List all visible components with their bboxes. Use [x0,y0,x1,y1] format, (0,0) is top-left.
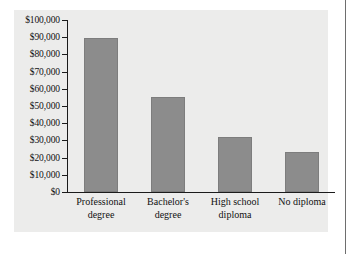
bar [285,152,319,192]
y-axis-tick [62,140,67,141]
y-axis-tick-label-wrap: $10,000 [0,170,60,180]
y-axis-tick-label-wrap: $90,000 [0,32,60,42]
y-axis-tick-label-wrap: $30,000 [0,135,60,145]
y-axis-tick-label: $100,000 [2,15,60,25]
y-axis-tick-label-wrap: $80,000 [0,49,60,59]
y-axis-tick [62,106,67,107]
x-axis-category-label: High schooldiploma [202,196,269,221]
y-axis-tick-label: $10,000 [2,170,60,180]
y-axis-line [67,20,68,192]
y-axis-tick-label: $50,000 [2,101,60,111]
figure: $0$10,000$20,000$30,000$40,000$50,000$60… [0,0,360,254]
y-axis-tick-label: $20,000 [2,153,60,163]
y-axis-tick-label: $80,000 [2,49,60,59]
y-axis-tick-label-wrap: $70,000 [0,67,60,77]
y-axis-tick [62,192,67,193]
y-axis-tick-label: $70,000 [2,67,60,77]
y-axis-tick-label-wrap: $60,000 [0,84,60,94]
x-axis-label-line: Bachelor's [135,196,202,209]
y-axis-tick [62,175,67,176]
y-axis-tick [62,72,67,73]
x-axis-label-line: High school [202,196,269,209]
bar-chart: $0$10,000$20,000$30,000$40,000$50,000$60… [0,0,360,254]
y-axis-tick-label: $90,000 [2,32,60,42]
y-axis-tick-label-wrap: $40,000 [0,118,60,128]
page-edge-rule [345,0,346,254]
y-axis-tick-label: $60,000 [2,84,60,94]
y-axis-tick [62,54,67,55]
bar [218,137,252,192]
y-axis-tick [62,158,67,159]
x-axis-category-label: Bachelor'sdegree [135,196,202,221]
x-axis-category-label: No diploma [269,196,336,209]
y-axis-tick-label-wrap: $0 [0,187,60,197]
y-axis-tick [62,20,67,21]
y-axis-tick-label-wrap: $20,000 [0,153,60,163]
y-axis-tick-label: $0 [2,187,60,197]
y-axis-tick-label-wrap: $50,000 [0,101,60,111]
bar [151,97,185,192]
y-axis-tick-label: $40,000 [2,118,60,128]
y-axis-tick-label-wrap: $100,000 [0,15,60,25]
x-axis-label-line: diploma [202,209,269,222]
y-axis-tick [62,89,67,90]
x-axis-line [67,192,335,193]
x-axis-category-label: Professionaldegree [68,196,135,221]
y-axis-tick-label: $30,000 [2,135,60,145]
bar [84,38,118,192]
x-axis-label-line: degree [135,209,202,222]
x-axis-label-line: No diploma [269,196,336,209]
y-axis-tick [62,37,67,38]
x-axis-label-line: Professional [68,196,135,209]
x-axis-label-line: degree [68,209,135,222]
y-axis-tick [62,123,67,124]
